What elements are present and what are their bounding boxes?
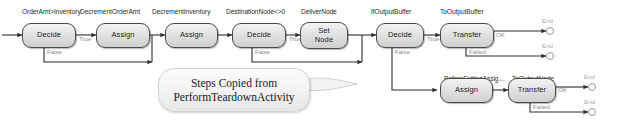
terminator-label-end-2: End <box>542 42 553 49</box>
flowchart-canvas: OrderAmt>Inventory Decide DecrementOrder… <box>0 0 625 136</box>
terminator-label-end-4: End <box>584 98 595 105</box>
callout-tail <box>295 68 395 98</box>
node-title-destination-node: DestinationNode<>0 <box>226 8 285 15</box>
node-title-if-output-buffer: IfOutputBuffer <box>371 8 411 15</box>
edge-label-false-2: False <box>255 48 270 55</box>
node-title-decrement-order-amt: DecrementOrderAmt <box>80 8 140 15</box>
edge-label-failed-2: Failed <box>533 103 550 110</box>
node-label: Decide <box>35 31 63 39</box>
node-transfer-to-output-node[interactable]: Transfer <box>508 78 556 103</box>
node-label: Assign <box>109 31 136 39</box>
node-decide-destination-node[interactable]: Decide <box>232 23 286 48</box>
node-decide-if-output-buffer[interactable]: Decide <box>376 23 424 48</box>
node-label: Assign <box>453 86 480 94</box>
node-label: Decide <box>386 31 414 39</box>
terminator-label-end-3: End <box>584 73 595 80</box>
node-decide-order-amt-inventory[interactable]: Decide <box>22 23 76 48</box>
edge-label-false-3: False <box>395 48 410 55</box>
node-label: Decide <box>245 31 273 39</box>
node-label: Transfer <box>516 86 548 94</box>
edge-label-true-1: True <box>79 35 91 42</box>
terminator-end-2[interactable] <box>546 52 554 60</box>
edge-label-true-2: True <box>289 35 301 42</box>
node-label: Set Node <box>313 27 335 44</box>
terminator-end-3[interactable] <box>588 83 596 91</box>
node-title-order-amt-inventory: OrderAmt>Inventory <box>22 8 81 15</box>
node-assign-before-exiting[interactable]: Assign <box>440 78 493 103</box>
edge-label-ok-2: OK <box>558 86 567 93</box>
node-title-decrement-inventory: DecrementInventory <box>152 8 210 15</box>
node-assign-decrement-order-amt[interactable]: Assign <box>96 23 150 48</box>
terminator-end-4[interactable] <box>588 108 596 116</box>
edge-label-failed-1: Failed <box>469 48 486 55</box>
node-label: Assign <box>178 31 205 39</box>
node-title-to-output-buffer: ToOutputBuffer <box>440 8 484 15</box>
node-label: Transfer <box>451 31 483 39</box>
callout-line-2: PerformTeardownActivity <box>173 90 294 104</box>
edge-label-false-1: False <box>47 48 62 55</box>
node-assign-decrement-inventory[interactable]: Assign <box>165 23 218 48</box>
callout-line-1: Steps Copied from <box>191 76 277 90</box>
node-transfer-to-output-buffer[interactable]: Transfer <box>440 23 494 48</box>
callout-steps-copied: Steps Copied from PerformTeardownActivit… <box>158 68 310 112</box>
edge-label-true-3: True <box>427 35 439 42</box>
terminator-end-1[interactable] <box>546 27 554 35</box>
node-set-node-deliver-node[interactable]: Set Node <box>300 22 348 49</box>
node-title-deliver-node: DeliverNode <box>301 8 337 15</box>
terminator-label-end-1: End <box>542 17 553 24</box>
edge-label-ok-1: OK <box>496 31 505 38</box>
